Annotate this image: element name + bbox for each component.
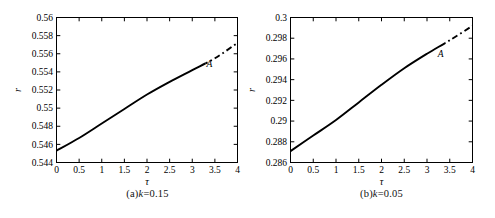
plot-box-a [57, 18, 238, 163]
y-tick-label: 0.544 [32, 158, 54, 168]
plots-canvas: 00.511.522.533.540.5440.5460.5480.550.55… [0, 0, 495, 218]
y-tick-label: 0.292 [266, 96, 288, 106]
y-tick-label: 0.546 [32, 140, 54, 150]
tick-labels-a: 00.511.522.533.540.5440.5460.5480.550.55… [32, 13, 241, 175]
caption-b-prefix: (b) [360, 188, 373, 199]
y-tick-label: 0.55 [36, 103, 53, 113]
y-tick-label: 0.294 [266, 75, 288, 85]
x-tick-label: 2.5 [164, 165, 176, 175]
panel-b: 00.511.522.533.540.2860.2880.290.2920.29… [246, 13, 475, 187]
x-tick-label: 0.5 [73, 165, 85, 175]
y-tick-label: 0.286 [266, 158, 288, 168]
ticks-b [291, 18, 473, 163]
y-tick-label: 0.556 [32, 49, 54, 59]
panel-a: 00.511.522.533.540.5440.5460.5480.550.55… [12, 13, 240, 187]
x-tick-label: 4 [235, 165, 240, 175]
x-tick-label: 2.5 [398, 165, 410, 175]
y-tick-label: 0.552 [32, 85, 54, 95]
y-tick-label: 0.298 [266, 33, 288, 43]
caption-b-value: =0.05 [378, 188, 403, 199]
caption-a-value: =0.15 [143, 188, 168, 199]
x-tick-label: 3 [190, 165, 195, 175]
x-tick-label: 0 [288, 165, 293, 175]
plot-box-b [291, 18, 473, 163]
x-tick-label: 1 [334, 165, 339, 175]
caption-panel-a: (a)k=0.15 [57, 187, 238, 201]
x-tick-label: 2 [145, 165, 150, 175]
caption-a-prefix: (a) [126, 188, 138, 199]
y-axis-label-a: r [12, 88, 23, 92]
x-axis-label-b: τ [380, 176, 384, 187]
y-tick-label: 0.288 [266, 137, 288, 147]
y-tick-label: 0.56 [36, 13, 53, 23]
point-A-label-b: A [437, 49, 444, 59]
x-tick-label: 3.5 [209, 165, 221, 175]
x-tick-label: 2 [379, 165, 384, 175]
curve-solid-b [291, 26, 473, 151]
x-tick-label: 0 [54, 165, 59, 175]
y-tick-label: 0.3 [275, 13, 287, 23]
y-tick-label: 0.29 [270, 116, 287, 126]
y-axis-label-b: r [246, 88, 257, 92]
x-tick-label: 1.5 [353, 165, 365, 175]
x-tick-label: 3 [425, 165, 430, 175]
y-tick-label: 0.554 [32, 67, 54, 77]
ticks-a [57, 18, 238, 163]
point-A-label-a: A [206, 59, 213, 69]
x-axis-label-a: τ [145, 176, 149, 187]
x-tick-label: 0.5 [307, 165, 319, 175]
x-tick-label: 1 [99, 165, 104, 175]
caption-panel-b: (b)k=0.05 [290, 187, 473, 201]
x-tick-label: 3.5 [444, 165, 456, 175]
x-tick-label: 4 [470, 165, 475, 175]
y-tick-label: 0.548 [32, 121, 54, 131]
dual-line-chart-figure: 00.511.522.533.540.5440.5460.5480.550.55… [0, 0, 495, 218]
x-tick-label: 1.5 [118, 165, 130, 175]
y-tick-label: 0.296 [266, 54, 288, 64]
y-tick-label: 0.558 [32, 31, 54, 41]
